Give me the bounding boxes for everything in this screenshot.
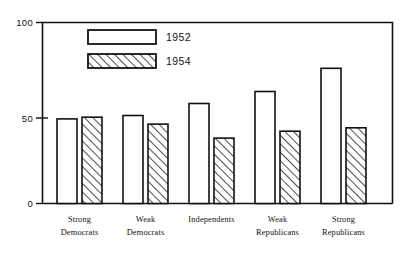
chart-canvas: 100 50 0 1952 1954 <box>0 0 412 258</box>
x-axis-labels: Strong Democrats Weak Democrats Independ… <box>61 215 365 237</box>
cat-label-strong-republicans-line1: Strong <box>332 215 356 224</box>
cat-label-independents-line1: Independents <box>188 215 234 224</box>
y-label-0: 0 <box>27 198 33 209</box>
legend-swatch-1954 <box>88 54 156 68</box>
bar-1952-weak-republicans <box>255 92 275 204</box>
bar-1952-independents <box>189 104 209 204</box>
legend-swatch-1952 <box>88 30 156 44</box>
y-label-50: 50 <box>22 113 33 124</box>
cat-label-weak-democrats-line1: Weak <box>136 215 156 224</box>
bar-group-independents <box>189 104 234 204</box>
bar-group-weak-republicans <box>255 92 300 204</box>
cat-label-strong-democrats-line2: Democrats <box>61 228 99 237</box>
y-label-100: 100 <box>16 17 33 28</box>
cat-label-weak-republicans-line2: Republicans <box>256 228 299 237</box>
bar-group-strong-democrats <box>57 117 102 203</box>
legend-label-1952: 1952 <box>166 31 191 43</box>
cat-label-weak-republicans-line1: Weak <box>268 215 288 224</box>
bar-1954-weak-democrats <box>148 124 168 203</box>
bar-group-strong-republicans <box>321 68 366 203</box>
legend: 1952 1954 <box>88 30 191 68</box>
cat-label-weak-democrats-line2: Democrats <box>127 228 165 237</box>
bar-1952-weak-democrats <box>123 116 143 204</box>
cat-label-strong-republicans-line2: Republicans <box>322 228 365 237</box>
bar-chart: 100 50 0 1952 1954 <box>0 0 412 258</box>
bar-1954-strong-democrats <box>82 117 102 203</box>
cat-label-strong-democrats-line1: Strong <box>68 215 92 224</box>
bar-1954-independents <box>214 138 234 203</box>
bar-1952-strong-republicans <box>321 68 341 203</box>
bar-group-weak-democrats <box>123 116 168 204</box>
bar-1954-weak-republicans <box>280 131 300 203</box>
bar-1952-strong-democrats <box>57 119 77 204</box>
legend-label-1954: 1954 <box>166 55 191 67</box>
bar-1954-strong-republicans <box>346 128 366 204</box>
